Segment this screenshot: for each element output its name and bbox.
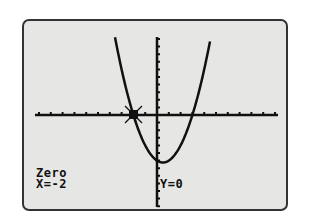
y-readout: Y=0 xyxy=(160,179,183,190)
x-readout: X=-2 xyxy=(36,179,67,190)
parabola-curve xyxy=(115,37,210,162)
calculator-screen: Zero X=-2 Y=0 xyxy=(22,19,288,211)
